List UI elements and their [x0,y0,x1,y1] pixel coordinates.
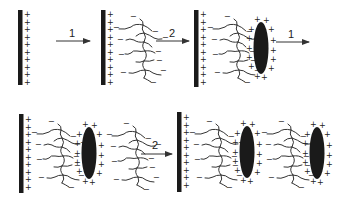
polyelectrolyte [113,12,169,87]
substrate [18,10,23,85]
positive-charges [25,115,32,192]
stage-bare-substrate [18,10,31,87]
stage-second-polyelectrolyte [19,114,162,194]
substrate [177,112,182,192]
step-label: 2 [169,27,175,39]
step-label: 2 [152,139,158,151]
step-label: 1 [69,27,75,39]
arrow-step-1: 1 [56,27,90,41]
positive-charges [200,10,207,87]
polyelectrolyte [106,119,162,194]
positive-charges [24,10,31,87]
substrate [101,10,106,85]
substrate [19,114,24,193]
particle [302,120,333,187]
positive-charges [107,10,114,87]
stage-polyelectrolyte-layer [101,10,169,87]
lbl-assembly-diagram: + + + + + + + + + + − [0,0,348,199]
stage-two-bilayers [177,112,333,192]
positive-charges [183,113,190,190]
stage-particle-layer [194,10,277,87]
substrate [194,10,199,87]
particle [246,15,277,82]
step-label: 1 [288,28,294,40]
arrow-step-1-repeat: 1 [276,28,309,42]
